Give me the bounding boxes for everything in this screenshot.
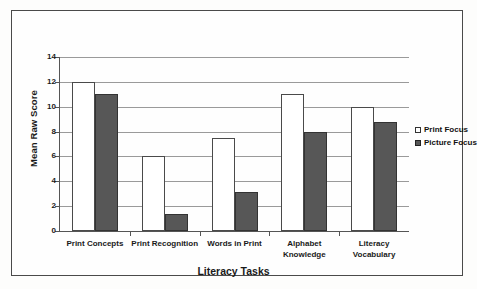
bar-picture-focus[interactable] — [304, 132, 327, 231]
bar-print-focus[interactable] — [142, 156, 165, 231]
y-axis-tick-label: 2 — [34, 202, 56, 210]
x-axis-tick — [269, 231, 270, 236]
bar-series-layer — [60, 57, 409, 231]
y-axis-tick-label: 8 — [34, 128, 56, 136]
x-axis-tick-label: Print Concepts — [60, 239, 130, 250]
bar-group — [212, 57, 258, 231]
bar-picture-focus[interactable] — [165, 214, 188, 231]
bar-group — [351, 57, 397, 231]
bar-group — [281, 57, 327, 231]
x-axis-title: Literacy Tasks — [59, 265, 408, 277]
bar-print-focus[interactable] — [72, 82, 95, 231]
bar-picture-focus[interactable] — [374, 122, 397, 231]
y-axis-tick-label: 6 — [34, 152, 56, 160]
legend-item-picture-focus: Picture Focus — [415, 136, 479, 149]
legend-swatch-picture-focus — [415, 140, 421, 146]
legend-label-picture-focus: Picture Focus — [424, 138, 477, 147]
y-axis-tick-label: 14 — [34, 53, 56, 61]
bar-print-focus[interactable] — [351, 107, 374, 231]
bar-group — [142, 57, 188, 231]
y-axis-tick-label: 4 — [34, 177, 56, 185]
x-axis-tick-label: Literacy Vocabulary — [339, 239, 409, 260]
x-axis-tick-label: Words in Print — [200, 239, 270, 250]
bar-picture-focus[interactable] — [235, 192, 258, 231]
x-axis-tick — [200, 231, 201, 236]
bar-group — [72, 57, 118, 231]
legend-label-print-focus: Print Focus — [424, 125, 468, 134]
legend-swatch-print-focus — [415, 127, 421, 133]
bar-print-focus[interactable] — [212, 138, 235, 231]
x-axis-tick — [339, 231, 340, 236]
x-axis-tick-label: Print Recognition — [130, 239, 200, 250]
y-axis-tick-label: 12 — [34, 78, 56, 86]
x-axis-tick — [130, 231, 131, 236]
plot-area: 02468101214 Print ConceptsPrint Recognit… — [59, 57, 409, 232]
x-axis-tick-label: Alphabet Knowledge — [269, 239, 339, 260]
y-axis-tick-label: 0 — [34, 227, 56, 235]
y-axis-tick-label: 10 — [34, 103, 56, 111]
legend-item-print-focus: Print Focus — [415, 123, 479, 136]
chart-legend: Print Focus Picture Focus — [415, 123, 479, 149]
chart-frame: Mean Raw Score 02468101214 Print Concept… — [11, 10, 463, 276]
bar-picture-focus[interactable] — [95, 94, 118, 231]
bar-print-focus[interactable] — [281, 94, 304, 231]
